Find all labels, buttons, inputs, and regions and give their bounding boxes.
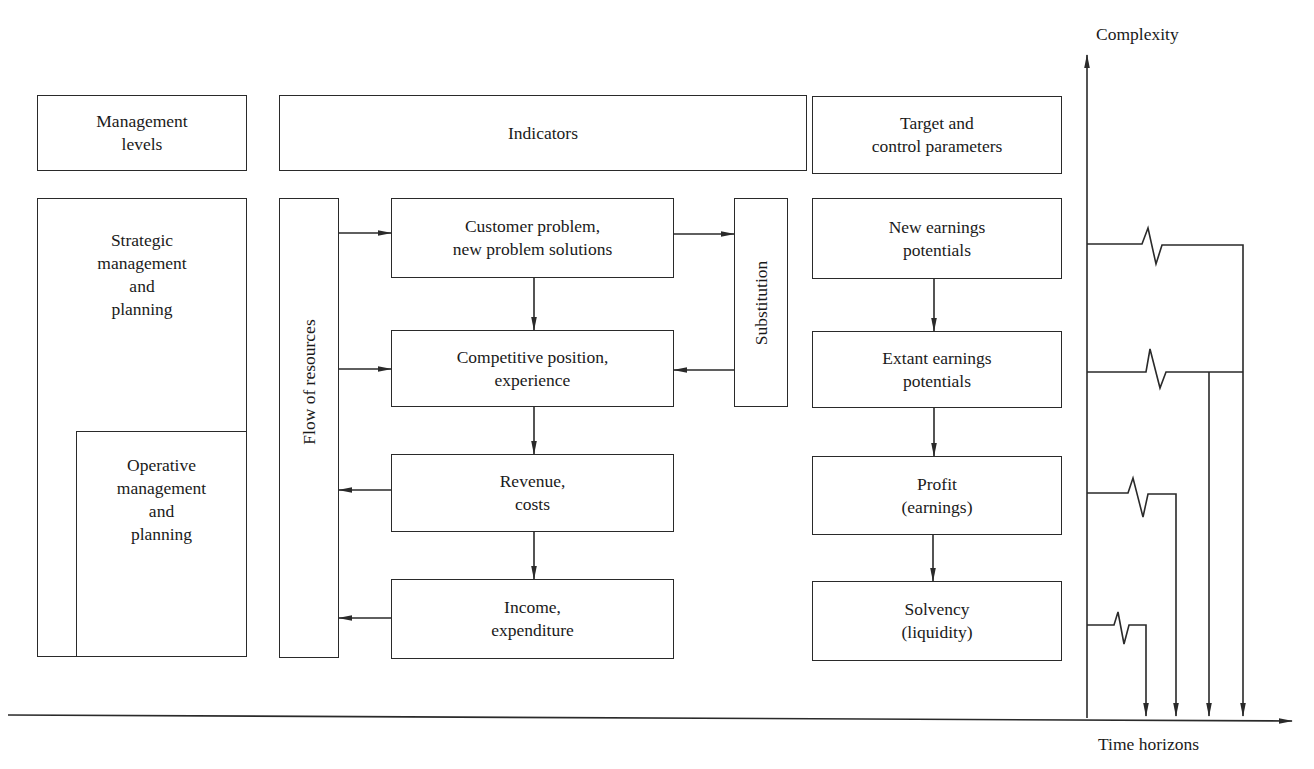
y-axis-label-complexity: Complexity [1096,24,1179,45]
strategic-management-label: Strategic management and planning [38,229,246,321]
substitution-label: Substitution [751,260,772,345]
flow-of-resources-box: Flow of resources [279,198,339,658]
operative-management-label: Operative management and planning [77,454,246,546]
indicator-competitive-position: Competitive position, experience [391,330,674,407]
target-profit: Profit (earnings) [812,456,1062,535]
target-profit-text: Profit (earnings) [902,473,973,519]
horizon-line-solvency [1087,612,1146,716]
flow-of-resources-label: Flow of resources [299,319,320,444]
horizon-line-extant-earnings [1087,349,1243,388]
header-management-levels: Management levels [37,95,247,171]
indicator-revenue-costs: Revenue, costs [391,454,674,532]
indicator-competitive-position-text: Competitive position, experience [457,346,609,392]
header-indicators: Indicators [279,95,807,171]
indicator-revenue-costs-text: Revenue, costs [500,470,566,516]
target-extant-earnings: Extant earnings potentials [812,331,1062,408]
target-solvency-text: Solvency (liquidity) [902,598,973,644]
header-target-text: Target and control parameters [872,112,1003,158]
indicator-income-expenditure-text: Income, expenditure [491,596,574,642]
target-new-earnings: New earnings potentials [812,198,1062,279]
indicator-customer-problem-text: Customer problem, new problem solutions [453,215,612,261]
x-axis-time-horizons [8,715,1292,721]
target-solvency: Solvency (liquidity) [812,581,1062,661]
header-management-levels-text: Management levels [96,110,187,156]
horizon-line-profit [1087,478,1176,716]
target-new-earnings-text: New earnings potentials [889,216,986,262]
x-axis-label-time-horizons: Time horizons [1098,734,1199,755]
substitution-box: Substitution [734,198,788,407]
header-target-control-parameters: Target and control parameters [812,96,1062,174]
indicator-income-expenditure: Income, expenditure [391,579,674,659]
horizon-line-new-earnings [1087,228,1243,716]
indicator-customer-problem: Customer problem, new problem solutions [391,198,674,278]
operative-management-box: Operative management and planning [76,431,247,657]
header-indicators-text: Indicators [508,122,578,145]
target-extant-earnings-text: Extant earnings potentials [882,347,991,393]
